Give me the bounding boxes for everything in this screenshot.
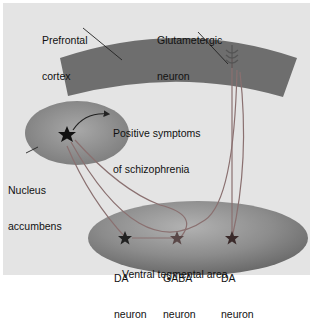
gaba-line2: neuron: [163, 308, 196, 320]
prefrontal-label-line1: Prefrontal: [42, 34, 88, 46]
prefrontal-label-line2: cortex: [42, 70, 88, 82]
glutamatergic-neuron-label: Glutametergic neuron: [157, 10, 222, 94]
glutamatergic-label-line1: Glutametergic: [157, 34, 222, 46]
nucleus-accumbens-label: Nucleus accumbens: [8, 160, 62, 244]
prefrontal-cortex-label: Prefrontal cortex: [42, 10, 88, 94]
ventral-tegmental-area-label: Ventral tegmental area: [122, 268, 228, 280]
nucleus-accumbens-line1: Nucleus: [8, 184, 62, 196]
da-right-line2: neuron: [221, 308, 254, 320]
positive-symptoms-line2: of schizophrenia: [113, 163, 201, 175]
positive-symptoms-line1: Positive symptoms: [113, 127, 201, 139]
da-neuron-left-label: DA neuron: [114, 248, 147, 322]
gaba-neuron-label: GABA neuron: [163, 248, 196, 322]
da-left-line2: neuron: [114, 308, 147, 320]
nucleus-accumbens-line2: accumbens: [8, 220, 62, 232]
da-neuron-right-label: DA neuron: [221, 248, 254, 322]
positive-symptoms-label: Positive symptoms of schizophrenia: [113, 103, 201, 187]
glutamatergic-label-line2: neuron: [157, 70, 222, 82]
